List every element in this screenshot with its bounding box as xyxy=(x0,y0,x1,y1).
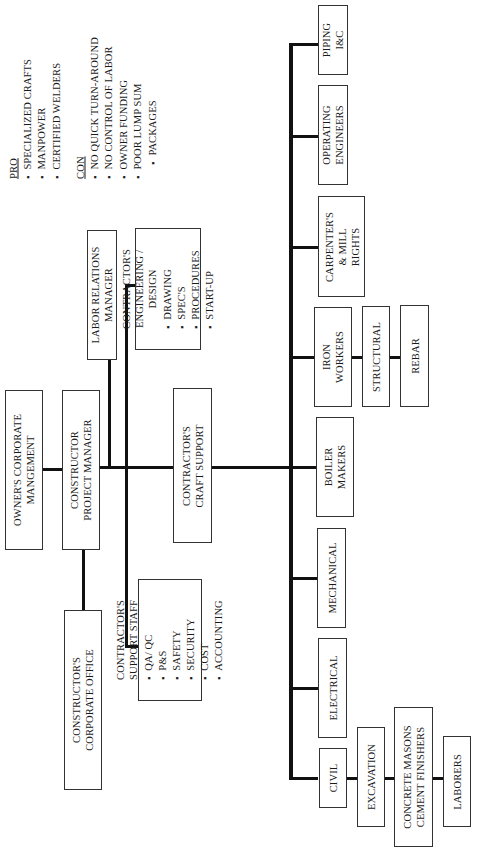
connector-carpenters xyxy=(289,246,318,249)
con-item: OWNER FUNDING xyxy=(116,37,131,179)
labor-relations-manager-box: LABOR RELATIONS MANAGER xyxy=(87,230,117,360)
support-item: COST xyxy=(198,600,212,680)
support-item: SECURITY xyxy=(184,600,198,680)
contractor-support-staff-box: CONTRACTOR'S SUPPORT STAFF QA/ QC P&S SA… xyxy=(138,579,202,701)
civil-concrete-masons-box: CONCRETE MASONSCEMENT FINISHERS xyxy=(394,707,433,847)
connector-excavation-masons xyxy=(385,777,394,780)
contractor-engineering-design-box: CONTRACTOR'S ENGINEERING / DESIGN DRAWIN… xyxy=(135,228,201,350)
con-item-cont: PACKAGES xyxy=(145,37,160,179)
con-item: NO CONTROL OF LABOR xyxy=(102,37,117,179)
pro-item: SPECIALIZED CRAFTS xyxy=(20,37,35,179)
connector-piping xyxy=(289,43,318,46)
pro-item: CERTIFIED WELDERS xyxy=(49,37,64,179)
connector-electrical xyxy=(289,687,318,690)
connector-structural-rebar xyxy=(390,356,400,359)
con-item: NO QUICK TURN-AROUND xyxy=(87,37,102,179)
pro-list: SPECIALIZED CRAFTS MANPOWER CERTIFIED WE… xyxy=(20,37,64,179)
craft-civil-box: CIVIL xyxy=(319,748,347,808)
craft-structural-box: STRUCTURAL xyxy=(362,306,390,407)
craft-boiler-makers-box: BOILERMAKERS xyxy=(316,417,354,517)
support-item: QA/ QC xyxy=(142,600,156,680)
craft-carpenters-millrights-box: CARPENTER'S& MILLRIGHTS xyxy=(318,196,365,297)
engineering-item: DRAWING xyxy=(161,249,175,329)
connector-mechanical xyxy=(289,577,318,580)
craft-operating-engineers-box: OPERATINGENGINEERS xyxy=(318,85,348,185)
connector-labor xyxy=(108,360,111,468)
constructor-corporate-office-box: CONSTRUCTOR'S CORPORATE OFFICE xyxy=(64,610,102,790)
connector-operating xyxy=(289,135,318,138)
civil-excavation-box: EXCAVATION xyxy=(357,727,385,827)
con-list: NO QUICK TURN-AROUND NO CONTROL OF LABOR… xyxy=(87,37,160,179)
craft-piping-ic-box: PIPINGI&C xyxy=(318,5,348,75)
engineering-items: DRAWING SPEC'S PROCEDURES START-UP xyxy=(161,249,217,329)
pro-heading: PRO xyxy=(7,37,21,179)
craft-rebar-box: REBAR xyxy=(400,305,429,407)
support-item: ACCOUNTING xyxy=(212,600,226,680)
constructor-project-manager-box: CONSTRUCTOR PROJECT MANAGER xyxy=(62,390,100,550)
connector-civil xyxy=(289,777,318,780)
craft-mechanical-box: MECHANICAL xyxy=(317,528,346,628)
engineering-item: SPEC'S xyxy=(175,249,189,329)
connector-masons-laborers xyxy=(433,777,443,780)
con-heading: CON xyxy=(74,37,88,179)
pro-con-notes: PRO SPECIALIZED CRAFTS MANPOWER CERTIFIE… xyxy=(0,0,170,215)
con-item: POOR LUMP SUM xyxy=(131,37,146,179)
craft-iron-workers-box: IRONWORKERS xyxy=(314,307,352,407)
craft-electrical-box: ELECTRICAL xyxy=(318,638,347,738)
engineering-item: START-UP xyxy=(203,249,217,329)
connector-pm-corp xyxy=(82,550,85,610)
connector-civil-excavation xyxy=(347,777,357,780)
connector-owner-pm xyxy=(43,468,62,471)
civil-laborers-box: LABORERS xyxy=(443,736,471,827)
craft-trunk xyxy=(289,43,293,780)
pro-item: MANPOWER xyxy=(35,37,50,179)
support-item: SAFETY xyxy=(170,600,184,680)
owner-corporate-management-box: OWNER'S CORPORATE MANGEMENT xyxy=(5,390,43,550)
contractor-craft-support-box: CONTRACTOR'S CRAFT SUPPORT xyxy=(173,388,212,543)
support-item: P&S xyxy=(156,600,170,680)
support-staff-items: QA/ QC P&S SAFETY SECURITY COST ACCOUNTI… xyxy=(142,600,226,680)
staff-bus xyxy=(125,284,128,647)
engineering-item: PROCEDURES xyxy=(189,249,203,329)
connector-boiler xyxy=(289,466,318,469)
